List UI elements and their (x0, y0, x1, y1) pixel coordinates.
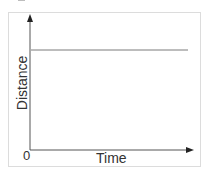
x-axis-label: Time (96, 150, 127, 166)
y-axis-label: Distance (14, 56, 30, 110)
x-axis-arrow-icon (186, 147, 194, 153)
y-axis-arrow-icon (27, 14, 33, 22)
origin-label: 0 (23, 148, 30, 163)
